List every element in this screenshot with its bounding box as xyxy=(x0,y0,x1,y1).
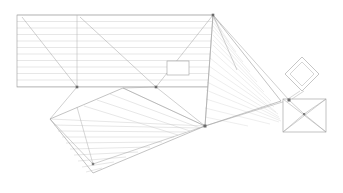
junction-lower-center-node xyxy=(204,125,207,128)
roof-plan-svg xyxy=(0,0,343,193)
lower-left-panel-node xyxy=(92,163,94,165)
upper-left-roof-panel xyxy=(17,15,213,87)
right-block-center-node xyxy=(303,113,305,115)
upper-left-panel-fill xyxy=(17,15,213,87)
diamond-marker xyxy=(285,57,319,99)
apex-top-right-node xyxy=(212,14,215,17)
valley-center-node xyxy=(155,86,158,89)
drawing-canvas xyxy=(0,0,343,193)
junction-right-node xyxy=(288,99,291,102)
upper-right-roof-panel xyxy=(205,15,289,126)
center-opening-rectangle xyxy=(167,61,189,75)
valley-left-node xyxy=(76,86,79,89)
lower-left-roof-panel xyxy=(50,87,205,173)
right-rectangular-block xyxy=(283,99,326,132)
